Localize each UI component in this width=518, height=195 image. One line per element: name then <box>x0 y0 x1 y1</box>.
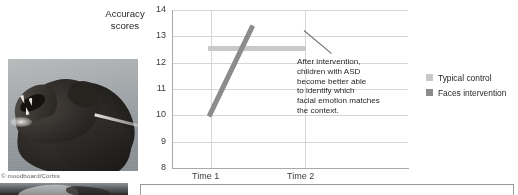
series-line-faces-intervention <box>207 24 255 117</box>
annotation-line-6: the context. <box>297 106 409 116</box>
figure-root: © moodboard/Corbis Accuracy scores 14 13… <box>0 0 518 195</box>
x-axis-line <box>172 168 409 169</box>
gridline-x-time-1 <box>211 10 212 168</box>
annotation-leader-line <box>304 30 332 54</box>
y-tick-label: 13 <box>144 30 166 40</box>
annotation-line-5: facial emotion matches <box>297 96 409 106</box>
y-tick-label: 11 <box>144 83 166 93</box>
gridline-y-14 <box>172 10 408 11</box>
gridline-y-9 <box>172 142 408 143</box>
legend-label: Typical control <box>438 73 492 83</box>
y-tick-label: 14 <box>144 4 166 14</box>
annotation-line-1: After intervention, <box>297 57 409 67</box>
chart-legend: Typical control Faces intervention <box>426 71 506 101</box>
y-tick-label: 12 <box>144 57 166 67</box>
x-tick-label-time-2: Time 2 <box>287 171 314 181</box>
annotation-line-4: to identify which <box>297 86 409 96</box>
annotation-line-2: children with ASD <box>297 67 409 77</box>
annotation-line-3: become better able <box>297 77 409 87</box>
gridline-y-13 <box>172 36 408 37</box>
y-axis-line <box>172 10 173 169</box>
y-tick-label: 8 <box>144 162 166 172</box>
caption-box <box>140 184 514 195</box>
x-tick-label-time-1: Time 1 <box>192 171 219 181</box>
legend-swatch-icon <box>426 89 433 96</box>
legend-label: Faces intervention <box>438 88 506 98</box>
y-tick-label: 10 <box>144 109 166 119</box>
legend-item-faces-intervention: Faces intervention <box>426 86 506 99</box>
line-chart: Accuracy scores 14 13 12 11 10 9 8 Time … <box>0 0 518 195</box>
legend-item-typical-control: Typical control <box>426 71 506 84</box>
chart-annotation: After intervention, children with ASD be… <box>297 57 409 116</box>
y-tick-label: 9 <box>144 136 166 146</box>
series-line-typical-control <box>208 46 306 51</box>
legend-swatch-icon <box>426 74 433 81</box>
